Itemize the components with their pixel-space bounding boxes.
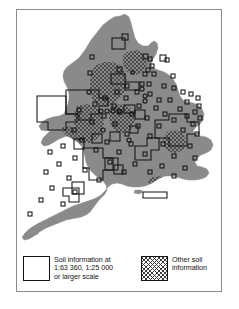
hatched-box-swatch-icon [141,256,168,281]
survey-box [73,156,77,160]
legend-line: information [172,264,207,272]
figure-root: Soil information at 1:63 360, 1:25 000 o… [0,0,239,309]
survey-box [61,144,65,148]
survey-box [189,92,193,96]
landmass-cornwall [22,231,39,240]
survey-box [196,96,200,100]
survey-box [73,190,77,194]
legend-line: or larger scale [54,273,113,281]
map-area [17,10,221,250]
survey-box [44,170,48,174]
survey-box [83,168,87,172]
legend-label-other-soil-information: Other soil information [172,256,207,273]
survey-box [48,150,52,154]
survey-region-south-coast [143,192,167,198]
figure-frame: Soil information at 1:63 360, 1:25 000 o… [16,9,222,292]
legend-label-detailed-survey: Soil information at 1:63 360, 1:25 000 o… [54,256,113,281]
landmass-isle-of-wight [134,190,143,194]
survey-box [39,198,43,202]
legend-entry-detailed-survey: Soil information at 1:63 360, 1:25 000 o… [23,256,113,281]
map-legend: Soil information at 1:63 360, 1:25 000 o… [17,250,221,291]
survey-box [181,90,185,94]
legend-entry-other-soil-information: Other soil information [141,256,207,281]
survey-box [57,162,61,166]
survey-box [50,186,54,190]
survey-box [67,176,71,180]
map-svg [17,10,221,250]
white-box-swatch-icon [23,256,50,281]
survey-box [61,202,65,206]
survey-box [28,212,32,216]
